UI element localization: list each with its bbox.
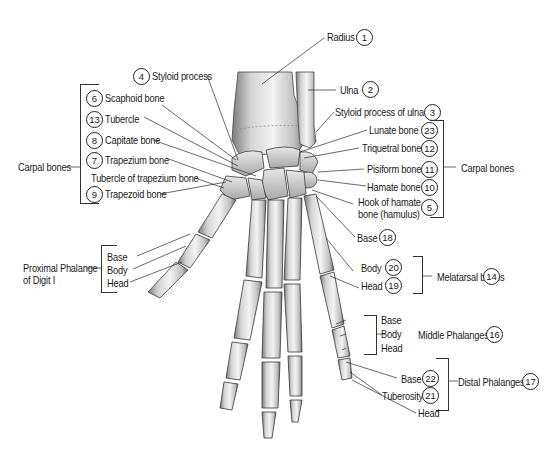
- label-distal-tuberosity: Tuberosity: [382, 390, 423, 402]
- number-badge-tubercle: 13: [86, 111, 103, 128]
- middle-middle-phalanx: [262, 362, 280, 408]
- number-badge-ulna: 2: [362, 81, 379, 98]
- number-badge-metacarpal-body: 20: [385, 259, 402, 276]
- label-middle-phalanx-body: Body: [381, 328, 401, 340]
- index-middle-phalanx: [226, 342, 248, 380]
- thumb-proximal-phalanx: [178, 234, 210, 268]
- label-carpal-bones-right: Carpal bones: [461, 162, 514, 174]
- distal-phalanges-bracket: [436, 358, 449, 411]
- number-badge-distal-phalanges: 17: [522, 373, 539, 390]
- index-distal-phalanx: [220, 382, 238, 410]
- number-badge-hook-hamate: 5: [421, 199, 438, 216]
- number-badge-hamate: 10: [421, 179, 438, 196]
- radius-bone: [232, 72, 306, 156]
- forearm-bones: [232, 72, 316, 156]
- label-metacarpal-body: Body: [361, 262, 381, 274]
- number-badge-metatarsal: 14: [483, 268, 500, 285]
- label-proximal-base: Base: [107, 251, 127, 263]
- little-distal-phalanx: [338, 358, 352, 380]
- label-metacarpal-head: Head: [361, 280, 382, 292]
- label-styloid-process: Styloid process: [152, 70, 212, 82]
- middle-distal-phalanx: [262, 412, 276, 438]
- ring-metacarpal: [284, 198, 302, 280]
- number-badge-distal-tuberosity: 21: [422, 387, 439, 404]
- number-badge-radius: 1: [356, 29, 373, 46]
- scaphoid-bone: [232, 151, 264, 176]
- number-badge-trapezoid: 9: [86, 186, 103, 203]
- number-badge-styloid-process: 4: [133, 68, 150, 85]
- index-metacarpal: [246, 200, 266, 278]
- label-metacarpal-base: Base: [357, 232, 377, 244]
- label-ulna: Ulna: [340, 84, 358, 96]
- ring-distal-phalanx: [290, 400, 302, 422]
- hamate-bone: [286, 170, 306, 198]
- hand-bones-diagram: Radius 1 Ulna 2 Styloid process of ulna …: [0, 0, 555, 453]
- label-proximal-body: Body: [107, 264, 127, 276]
- label-middle-phalanx-head: Head: [381, 342, 402, 354]
- number-badge-triquetral: 12: [421, 140, 438, 157]
- middle-proximal-phalanx: [262, 292, 282, 358]
- number-badge-metacarpal-base: 18: [379, 229, 396, 246]
- label-styloid-process-of-ulna: Styloid process of ulna: [335, 106, 424, 118]
- middle-phalanges-bracket: [364, 315, 377, 355]
- ulna-bone: [296, 72, 316, 148]
- number-badge-styloid-ulna: 3: [424, 104, 441, 121]
- label-tubercle: Tubercle: [105, 113, 139, 125]
- number-badge-metacarpal-head: 19: [385, 277, 402, 294]
- carpal-bones: [220, 147, 318, 200]
- label-distal-head: Head: [418, 407, 439, 419]
- number-badge-trapezium: 7: [86, 152, 103, 169]
- little-finger: [304, 194, 352, 380]
- label-hook-of-hamate-line2: bone (hamulus): [358, 208, 420, 220]
- index-proximal-phalanx: [234, 280, 262, 340]
- label-pisiform-bone: Pisiform bone: [367, 163, 421, 175]
- label-trapezoid-bone: Trapezoid bone: [105, 188, 166, 200]
- label-lunate-bone: Lunate bone: [369, 124, 418, 136]
- label-proximal-head: Head: [107, 277, 128, 289]
- middle-metacarpal: [266, 200, 284, 288]
- label-hook-of-hamate-line1: Hook of hamate: [358, 196, 421, 208]
- label-capitate-bone: Capitate bone: [105, 134, 160, 146]
- label-trapezium-bone: Trapezium bone: [105, 154, 169, 166]
- number-badge-scaphoid: 6: [86, 90, 103, 107]
- number-badge-distal-base: 22: [422, 370, 439, 387]
- label-carpal-bones-left: Carpal bones: [18, 161, 71, 173]
- label-scaphoid-bone: Scaphoid bone: [105, 92, 164, 104]
- label-tubercle-of-trapezium: Tubercle of trapezium bone: [91, 172, 199, 184]
- label-triquetral-bone: Triquetral bone: [362, 142, 421, 154]
- ring-finger: [284, 198, 302, 422]
- label-distal-phalanges: Distal Phalanges: [458, 376, 525, 388]
- number-badge-capitate: 8: [86, 132, 103, 149]
- little-metacarpal: [304, 194, 334, 274]
- thumb-metacarpal: [198, 194, 236, 238]
- middle-finger: [262, 200, 284, 438]
- metatarsal-bracket: [413, 256, 423, 294]
- label-hamate-bone: Hamate bone: [367, 181, 421, 193]
- label-distal-base: Base: [401, 373, 421, 385]
- label-middle-phalanges: Middle Phalanges: [418, 329, 489, 341]
- lunate-bone: [266, 147, 300, 168]
- label-middle-phalanx-base: Base: [381, 314, 401, 326]
- number-badge-pisiform: 11: [421, 161, 438, 178]
- capitate-bone: [262, 168, 288, 200]
- number-badge-middle-phalanges: 16: [486, 326, 503, 343]
- triquetral-bone: [300, 152, 318, 174]
- label-proximal-phalange-line2: of Digit I: [23, 274, 55, 286]
- index-finger: [220, 200, 266, 410]
- little-middle-phalanx: [332, 326, 350, 358]
- ring-middle-phalanx: [288, 356, 302, 396]
- label-radius: Radius: [327, 31, 355, 43]
- number-badge-lunate: 23: [421, 122, 438, 139]
- ring-proximal-phalanx: [284, 284, 302, 352]
- label-proximal-phalange-line1: Proximal Phalange: [23, 262, 98, 274]
